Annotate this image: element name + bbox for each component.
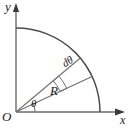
y-axis-label: y bbox=[5, 0, 11, 13]
dtheta-cap-arc bbox=[59, 76, 67, 88]
y-axis-arrow-icon bbox=[13, 3, 19, 12]
radius-label: R bbox=[50, 84, 58, 97]
quarter-circle-arc bbox=[16, 28, 100, 112]
x-axis-label: x bbox=[120, 114, 125, 126]
polar-sector-figure: y x O R θ dθ bbox=[0, 0, 132, 133]
theta-angle-label: θ bbox=[31, 98, 36, 109]
origin-label: O bbox=[2, 110, 11, 123]
dtheta-box-upper-tick bbox=[53, 76, 59, 81]
dtheta-box-lower-tick bbox=[60, 88, 66, 91]
